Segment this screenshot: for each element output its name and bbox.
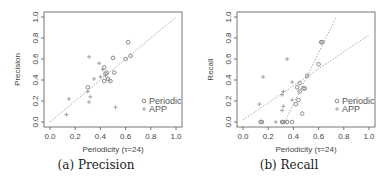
y-tick-label: 0.6 (31, 53, 40, 65)
app-point (64, 113, 68, 117)
x-tick-label: 0.6 (120, 132, 132, 141)
precision-scatter-plot: 0.00.20.40.60.81.0Periodicity (τ=24)0.00… (0, 0, 192, 160)
app-point (290, 98, 294, 102)
periodic-point (298, 81, 302, 85)
app-point (97, 61, 101, 65)
caption-recall: (b) Recall (193, 158, 385, 172)
app-point (88, 95, 92, 99)
app-point (92, 77, 96, 81)
x-axis-label: Periodicity (τ=24) (275, 145, 337, 154)
legend: PeriodicAPP (142, 96, 182, 114)
x-tick-label: 0.4 (95, 132, 107, 141)
periodic-point (126, 40, 130, 44)
x-tick-label: 0.4 (288, 132, 300, 141)
x-tick-label: 0.6 (313, 132, 325, 141)
app-point (114, 105, 118, 109)
x-tick-label: 0.0 (237, 132, 249, 141)
legend: PeriodicAPP (335, 96, 375, 114)
x-tick-label: 1.0 (170, 132, 182, 141)
app-point (87, 100, 91, 104)
x-axis: 0.00.20.40.60.81.0 (237, 127, 375, 141)
y-axis: 0.00.20.40.60.81.0 (224, 11, 237, 128)
data-points (257, 40, 324, 124)
app-point (280, 108, 284, 112)
panel-recall: 0.00.20.40.60.81.0Periodicity (τ=24)0.00… (193, 0, 385, 183)
app-point (67, 97, 71, 101)
periodic-point (290, 120, 294, 124)
y-tick-label: 0.6 (224, 53, 233, 65)
x-tick-label: 0.8 (338, 132, 350, 141)
y-tick-label: 0.2 (31, 95, 40, 107)
legend-periodic-marker (142, 99, 146, 103)
app-point (261, 75, 265, 79)
y-tick-label: 0.0 (224, 116, 233, 128)
x-tick-label: 0.2 (263, 132, 275, 141)
reference-line (285, 17, 337, 122)
periodic-point (86, 86, 90, 90)
app-point (281, 104, 285, 108)
y-tick-label: 1.0 (224, 11, 233, 23)
y-tick-label: 0.8 (224, 32, 233, 44)
periodic-point (317, 62, 321, 66)
y-tick-label: 1.0 (31, 11, 40, 23)
x-axis-label: Periodicity (τ=24) (82, 145, 144, 154)
legend-app-marker (142, 107, 146, 111)
legend-app-label: APP (149, 104, 167, 114)
app-point (101, 68, 105, 72)
caption-precision: (a) Precision (0, 158, 192, 172)
app-point (257, 102, 261, 106)
periodic-point (295, 86, 299, 90)
periodic-point (300, 112, 304, 116)
periodic-point (124, 57, 128, 61)
app-point (274, 120, 278, 124)
y-tick-label: 0.4 (224, 74, 233, 86)
y-axis: 0.00.20.40.60.81.0 (31, 11, 44, 128)
y-axis-label: Precision (13, 53, 22, 86)
legend-app-marker (335, 107, 339, 111)
periodic-point (111, 56, 115, 60)
y-tick-label: 0.8 (31, 32, 40, 44)
app-point (290, 80, 294, 84)
y-tick-label: 0.4 (31, 74, 40, 86)
x-tick-label: 0.0 (44, 132, 56, 141)
x-tick-label: 0.8 (145, 132, 157, 141)
panel-precision: 0.00.20.40.60.81.0Periodicity (τ=24)0.00… (0, 0, 192, 183)
x-tick-label: 0.2 (70, 132, 82, 141)
app-point (98, 75, 102, 79)
x-axis: 0.00.20.40.60.81.0 (44, 127, 182, 141)
x-tick-label: 1.0 (363, 132, 375, 141)
y-axis-label: Recall (206, 58, 215, 80)
legend-app-label: APP (342, 104, 360, 114)
app-point (86, 90, 90, 94)
periodic-point (102, 79, 106, 83)
periodic-point (294, 102, 298, 106)
data-points (64, 40, 132, 116)
app-point (285, 57, 289, 61)
periodic-point (112, 71, 116, 75)
app-point (107, 78, 111, 82)
app-point (87, 55, 91, 59)
y-tick-label: 0.2 (224, 95, 233, 107)
recall-scatter-plot: 0.00.20.40.60.81.0Periodicity (τ=24)0.00… (193, 0, 385, 160)
legend-periodic-marker (335, 99, 339, 103)
periodic-point (297, 98, 301, 102)
y-tick-label: 0.0 (31, 116, 40, 128)
